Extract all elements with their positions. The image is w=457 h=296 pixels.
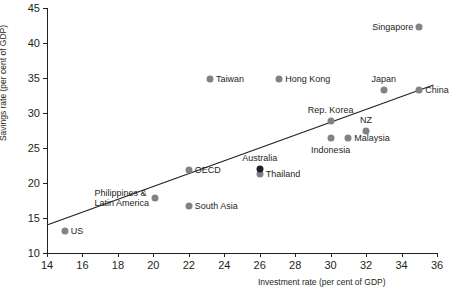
data-point-label: Australia [242, 153, 277, 163]
data-point-label: Japan [372, 74, 397, 84]
x-tick-label: 24 [218, 260, 230, 271]
x-tick-mark [331, 253, 332, 257]
scatter-chart: Savings rate (per cent of GDP) Investmen… [0, 0, 457, 296]
x-tick-label: 34 [395, 260, 407, 271]
data-point[interactable] [61, 227, 68, 234]
data-point-label: Hong Kong [285, 74, 330, 84]
x-tick-mark [402, 253, 403, 257]
x-tick-label: 20 [147, 260, 159, 271]
data-point-label: China [425, 85, 449, 95]
x-tick-label: 28 [289, 260, 301, 271]
data-point[interactable] [416, 23, 423, 30]
y-tick-label: 10 [28, 248, 40, 259]
data-point[interactable] [380, 86, 387, 93]
x-tick-mark [437, 253, 438, 257]
x-tick-mark [153, 253, 154, 257]
data-point[interactable] [327, 118, 334, 125]
data-point-label: US [71, 226, 84, 236]
data-point[interactable] [207, 76, 214, 83]
y-tick-label: 30 [28, 108, 40, 119]
data-point-label: Singapore [372, 22, 413, 32]
x-tick-label: 16 [76, 260, 88, 271]
data-point[interactable] [276, 76, 283, 83]
trend-line [47, 8, 437, 253]
data-point-label: OECD [195, 165, 221, 175]
x-tick-mark [118, 253, 119, 257]
data-point[interactable] [256, 166, 263, 173]
y-tick-label: 35 [28, 73, 40, 84]
data-point-label: NZ [360, 114, 372, 124]
y-tick-label: 40 [28, 38, 40, 49]
x-axis-title: Investment rate (per cent of GDP) [258, 278, 386, 287]
x-tick-mark [224, 253, 225, 257]
data-point-label: Philippines &Latin America [95, 188, 150, 208]
y-tick-label: 45 [28, 3, 40, 14]
data-point[interactable] [185, 167, 192, 174]
x-tick-mark [82, 253, 83, 257]
data-point[interactable] [327, 134, 334, 141]
data-point-label: Taiwan [216, 74, 244, 84]
x-tick-label: 18 [112, 260, 124, 271]
x-tick-label: 14 [41, 260, 53, 271]
x-tick-mark [47, 253, 48, 257]
data-point[interactable] [416, 86, 423, 93]
x-tick-mark [260, 253, 261, 257]
x-tick-mark [189, 253, 190, 257]
y-axis-title: Savings rate (per cent of GDP) [0, 3, 8, 163]
data-point-label: Indonesia [311, 144, 350, 154]
x-axis-line [47, 253, 438, 254]
data-point-label: Thailand [266, 169, 301, 179]
x-tick-label: 26 [254, 260, 266, 271]
data-point[interactable] [185, 203, 192, 210]
plot-area: 1015202530354045 14161820222426283032343… [47, 8, 437, 253]
y-tick-label: 15 [28, 213, 40, 224]
x-tick-mark [295, 253, 296, 257]
y-tick-label: 20 [28, 178, 40, 189]
data-point-label: South Asia [195, 201, 238, 211]
data-point-label: Malaysia [354, 132, 390, 142]
data-point[interactable] [345, 134, 352, 141]
x-tick-label: 30 [325, 260, 337, 271]
x-tick-mark [366, 253, 367, 257]
data-point[interactable] [152, 194, 159, 201]
x-tick-label: 22 [183, 260, 195, 271]
x-tick-label: 32 [360, 260, 372, 271]
data-point-label: Rep. Korea [308, 105, 354, 115]
x-tick-label: 36 [431, 260, 443, 271]
y-tick-label: 25 [28, 143, 40, 154]
